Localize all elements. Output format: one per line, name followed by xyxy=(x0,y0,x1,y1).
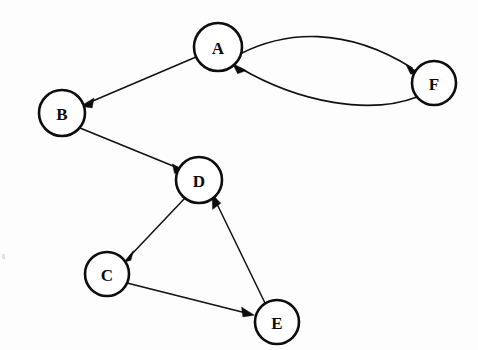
edge-d-to-c[interactable] xyxy=(124,198,186,263)
edge-a-to-b[interactable] xyxy=(81,57,197,108)
node-f-label: F xyxy=(429,75,439,94)
edge-e-to-d-line xyxy=(216,202,265,303)
node-c[interactable]: C xyxy=(85,252,129,296)
edge-e-to-d[interactable] xyxy=(212,194,265,303)
edge-f-to-a-curve xyxy=(240,68,417,105)
edge-f-to-a[interactable] xyxy=(233,63,418,105)
edge-a-to-b-line xyxy=(88,57,196,103)
node-d[interactable]: D xyxy=(176,157,222,203)
edge-c-to-e-line xyxy=(127,283,246,313)
edge-b-to-d[interactable] xyxy=(80,128,186,174)
node-b-label: B xyxy=(56,105,67,124)
edge-a-to-f-curve xyxy=(240,37,412,68)
edge-d-to-c-line xyxy=(130,198,185,256)
node-a[interactable]: A xyxy=(194,23,242,71)
node-d-label: D xyxy=(193,172,205,191)
node-e[interactable]: E xyxy=(255,300,299,344)
edge-c-to-e-arrowhead xyxy=(242,307,255,317)
node-c-label: C xyxy=(101,266,113,285)
graph-diagram-canvas: A B C D E F xyxy=(0,0,478,350)
node-e-label: E xyxy=(271,314,282,333)
node-f[interactable]: F xyxy=(412,61,456,105)
edge-b-to-d-line xyxy=(80,128,178,168)
node-a-label: A xyxy=(212,39,225,58)
edge-c-to-e[interactable] xyxy=(127,283,255,317)
edge-a-to-f[interactable] xyxy=(240,37,420,75)
graph-svg: A B C D E F xyxy=(0,0,478,350)
node-b[interactable]: B xyxy=(39,90,85,136)
